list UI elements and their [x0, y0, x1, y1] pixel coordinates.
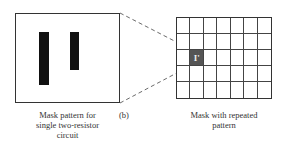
grid-cell [244, 66, 257, 82]
grid-cell [231, 18, 244, 34]
grid-cell [258, 34, 271, 50]
right-caption-line-2: pattern [166, 120, 282, 130]
grid-cell [204, 34, 217, 50]
grid-cell [190, 82, 203, 98]
grid-cell [231, 34, 244, 50]
grid-cell [177, 18, 190, 34]
grid-cell [177, 82, 190, 98]
grid-cell [258, 18, 271, 34]
grid-cell [190, 66, 203, 82]
grid-cell [204, 50, 217, 66]
grid-cell [217, 50, 230, 66]
panel-label: (b) [114, 110, 134, 120]
grid-cell [244, 50, 257, 66]
grid-cell [204, 82, 217, 98]
right-caption: Mask with repeated pattern [166, 110, 282, 130]
grid-cell [244, 34, 257, 50]
grid-cell [244, 82, 257, 98]
grid-cell [244, 18, 257, 34]
grid-cell [231, 82, 244, 98]
repeated-mask-grid: I' [176, 17, 272, 99]
grid-cell [204, 18, 217, 34]
grid-cell [204, 66, 217, 82]
grid-cell [258, 82, 271, 98]
grid-cell [258, 66, 271, 82]
grid-cell [190, 34, 203, 50]
grid-cell [217, 66, 230, 82]
grid-cell [177, 34, 190, 50]
grid-cell [177, 50, 190, 66]
left-caption-line-3: circuit [15, 130, 120, 140]
grid-cell [258, 50, 271, 66]
right-caption-line-1: Mask with repeated [166, 110, 282, 120]
grid-cell [231, 50, 244, 66]
highlighted-pattern-cell: I' [190, 50, 203, 66]
grid-cell [217, 34, 230, 50]
left-caption: Mask pattern for single two-resistor cir… [15, 110, 120, 140]
grid-cell [217, 18, 230, 34]
left-caption-line-2: single two-resistor [15, 120, 120, 130]
left-caption-line-1: Mask pattern for [15, 110, 120, 120]
grid-cell [190, 18, 203, 34]
grid-cell [231, 66, 244, 82]
grid-cell [177, 66, 190, 82]
grid-cell [217, 82, 230, 98]
